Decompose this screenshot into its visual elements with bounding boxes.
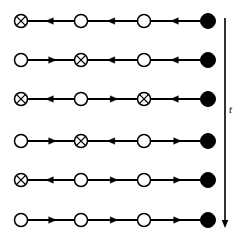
time-axis: [222, 18, 229, 228]
open-circle: [138, 54, 151, 67]
arrow-right: [110, 96, 118, 103]
arrow-right: [110, 217, 118, 224]
filled-circle: [201, 173, 216, 188]
arrow-left: [107, 57, 115, 64]
filled-circle: [201, 213, 216, 228]
time-axis-arrowhead: [222, 220, 229, 228]
filled-circle: [201, 134, 216, 149]
open-circle: [138, 214, 151, 227]
open-circle: [75, 214, 88, 227]
arrow-left: [46, 177, 54, 184]
arrow-right: [49, 217, 57, 224]
open-circle: [75, 15, 88, 28]
arrow-right: [174, 138, 182, 145]
time-axis-label: t: [229, 104, 232, 115]
open-circle: [138, 174, 151, 187]
open-circle: [15, 135, 28, 148]
filled-circle: [201, 14, 216, 29]
arrow-right: [174, 177, 182, 184]
open-circle: [15, 54, 28, 67]
chain-row: [15, 14, 216, 29]
open-circle: [75, 93, 88, 106]
chain-row: [15, 134, 216, 149]
open-circle: [138, 15, 151, 28]
arrow-left: [171, 57, 179, 64]
arrow-left: [46, 96, 54, 103]
open-circle: [15, 214, 28, 227]
arrow-right: [49, 138, 57, 145]
chain-row: [15, 213, 216, 228]
chain-row: [15, 53, 216, 68]
filled-circle: [201, 92, 216, 107]
diagram-canvas: t: [0, 0, 239, 242]
arrow-right: [49, 57, 57, 64]
arrow-left: [171, 96, 179, 103]
arrow-left: [46, 18, 54, 25]
arrow-left: [107, 18, 115, 25]
chain-row: [15, 173, 216, 188]
arrow-left: [171, 18, 179, 25]
open-circle: [138, 135, 151, 148]
arrow-right: [174, 217, 182, 224]
chain-row: [15, 92, 216, 107]
open-circle: [75, 174, 88, 187]
arrow-right: [110, 177, 118, 184]
chain-diagram: [0, 0, 239, 242]
arrow-left: [107, 138, 115, 145]
filled-circle: [201, 53, 216, 68]
